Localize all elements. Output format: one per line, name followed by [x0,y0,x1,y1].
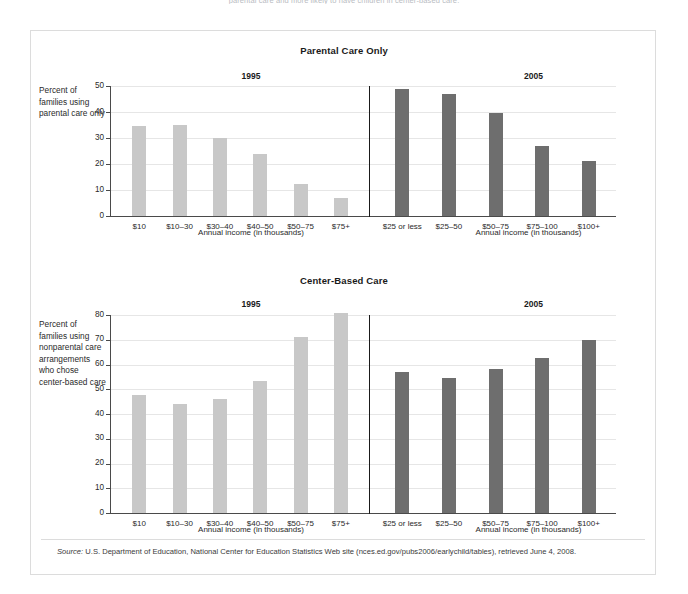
source-divider [41,539,645,540]
y-tick-label: 0 [82,211,104,220]
truncated-body-text: parental care and more likely to have ch… [0,0,688,4]
bar [489,369,503,513]
x-axis-caption-top-1995: Annual income (in thousands) [141,228,361,237]
bar [132,126,146,216]
bar [489,113,503,216]
source-text: U.S. Department of Education, National C… [83,547,576,556]
bar [334,313,348,513]
gridline [111,340,616,341]
y-tick-label: 40 [82,409,104,418]
bar [535,146,549,216]
x-axis-line [111,513,616,514]
y-tick-label: 70 [82,334,104,343]
bar [253,381,267,513]
chart-title-top: Parental Care Only [31,45,657,56]
year-label-bottom-2005: 2005 [421,299,646,309]
bar [582,161,596,216]
bar [442,94,456,216]
chart-title-bottom: Center-Based Care [31,275,657,286]
plot-area-bottom: 01020304050607080$10$10–30$30–40$40–50$5… [111,315,616,513]
figure-frame: Parental Care Only 1995 2005 Percent of … [30,30,656,575]
x-axis-caption-bottom-2005: Annual income (in thousands) [416,525,641,534]
bar [294,184,308,217]
y-tick-label: 80 [82,310,104,319]
bar [132,395,146,513]
y-tick-label: 20 [82,159,104,168]
year-label-top-2005: 2005 [421,71,646,81]
y-tick-label: 10 [82,483,104,492]
y-tick-label: 40 [82,107,104,116]
plot-area-top: 01020304050$10$10–30$30–40$40–50$50–75$7… [111,86,616,216]
x-axis-caption-top-2005: Annual income (in thousands) [416,228,641,237]
y-tick-label: 10 [82,185,104,194]
bar [173,125,187,216]
bar [213,138,227,216]
y-tick-label: 30 [82,433,104,442]
y-axis-line [110,315,111,514]
bar [395,372,409,513]
source-label: Source: [57,547,83,556]
bar [334,198,348,216]
gridline [111,138,616,139]
bar [213,399,227,513]
gridline [111,86,616,87]
source-note: Source: U.S. Department of Education, Na… [57,547,576,556]
y-tick-label: 30 [82,133,104,142]
y-axis-line [110,86,111,217]
y-tick-label: 50 [82,81,104,90]
y-tick-label: 20 [82,458,104,467]
year-label-bottom-1995: 1995 [131,299,371,309]
bar [253,154,267,216]
y-tick-label: 60 [82,359,104,368]
bar [582,340,596,513]
bar [442,378,456,513]
gridline [111,112,616,113]
bar [395,89,409,216]
bar [535,358,549,513]
y-tick-label: 50 [82,384,104,393]
bar [173,404,187,513]
bar [294,337,308,513]
x-axis-line [111,216,616,217]
x-axis-caption-bottom-1995: Annual income (in thousands) [141,525,361,534]
year-label-top-1995: 1995 [131,71,371,81]
panel-divider [369,315,370,514]
panel-divider [369,86,370,217]
gridline [111,315,616,316]
y-tick-label: 0 [82,508,104,517]
